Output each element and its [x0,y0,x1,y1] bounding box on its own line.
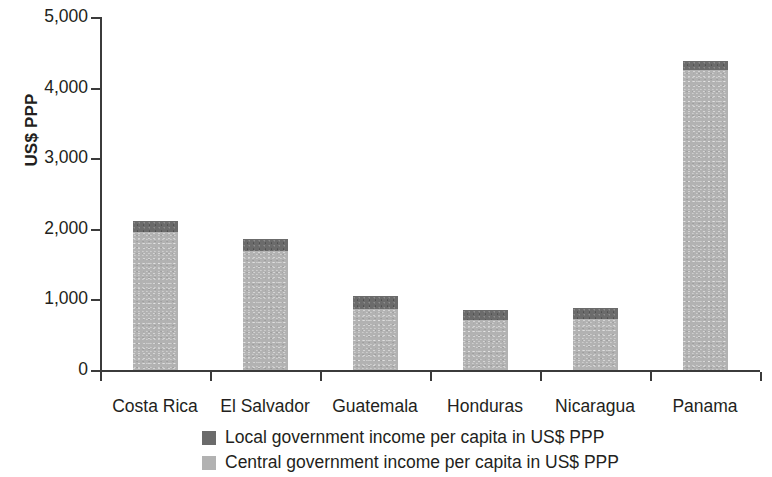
bar-segment-local [463,310,508,320]
x-axis-tick [430,372,432,381]
x-axis-tick [540,372,542,381]
y-axis-tick [91,299,100,301]
y-axis-tick-label: 2,000 [8,220,88,238]
x-axis-tick [650,372,652,381]
legend-item-central: Central government income per capita in … [202,450,619,475]
x-axis-label-panama: Panama [650,396,760,417]
bar-chart: US$ PPP 01,0002,0003,0004,0005,000 Costa… [0,0,772,477]
bar-costa-rica [133,221,178,370]
y-axis-tick-label: 4,000 [8,79,88,97]
legend-label-local: Local government income per capita in US… [225,427,604,448]
bar-segment-central [573,319,618,370]
legend-swatch-local-icon [202,431,216,445]
y-axis-tick [91,229,100,231]
legend-item-local: Local government income per capita in US… [202,425,619,450]
y-axis-tick-label: 0 [8,361,88,379]
bar-el-salvador [243,239,288,370]
bar-segment-central [243,251,288,370]
bar-segment-local [243,239,288,251]
bar-panama [683,61,728,370]
x-axis-label-el-salvador: El Salvador [210,396,320,417]
y-axis-tick-label: 1,000 [8,290,88,308]
x-axis-label-honduras: Honduras [430,396,540,417]
x-axis-tick [760,372,762,381]
chart-legend: Local government income per capita in US… [202,425,619,475]
y-axis-tick [91,88,100,90]
plot-area: 01,0002,0003,0004,0005,000 Costa RicaEl … [100,17,760,371]
x-axis-tick [210,372,212,381]
x-axis-label-costa-rica: Costa Rica [100,396,210,417]
bar-nicaragua [573,308,618,370]
bar-honduras [463,310,508,370]
y-axis-tick [91,158,100,160]
x-axis-tick [320,372,322,381]
bar-segment-local [133,221,178,232]
bar-segment-central [463,320,508,370]
bar-segment-local [353,296,398,309]
bar-segment-central [683,70,728,370]
x-axis-label-guatemala: Guatemala [320,396,430,417]
bar-segment-central [353,309,398,370]
y-axis-tick [91,370,100,372]
bar-guatemala [353,296,398,370]
legend-label-central: Central government income per capita in … [225,452,619,473]
bar-segment-local [573,308,618,319]
y-axis-tick-label: 5,000 [8,8,88,26]
bar-segment-central [133,232,178,370]
x-axis-tick [100,372,102,381]
x-axis-label-nicaragua: Nicaragua [540,396,650,417]
legend-swatch-central-icon [202,456,216,470]
bar-segment-local [683,61,728,70]
y-axis-tick-label: 3,000 [8,149,88,167]
y-axis-tick [91,17,100,19]
y-axis-line [100,17,102,372]
